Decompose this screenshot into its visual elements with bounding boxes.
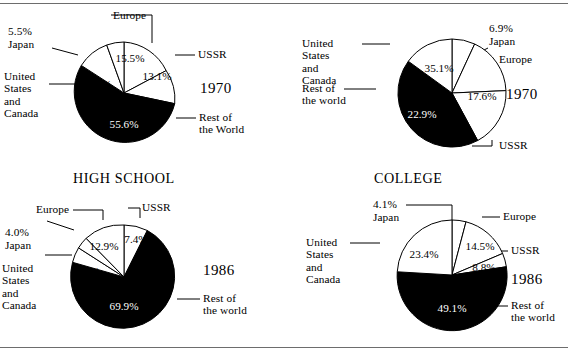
pct-usa-hs1986: 5.8% — [76, 265, 99, 277]
pct-japan-hs1986: 4.0% — [5, 226, 29, 238]
pct-japan-hs1970: 5.5% — [8, 25, 32, 37]
label-europe-col1986: Europe — [503, 210, 536, 222]
label-usa-col1970: United States and Canada — [302, 37, 336, 87]
year-hs1986: 1986 — [203, 262, 235, 279]
pct-europe-col1986: 14.5% — [466, 240, 495, 252]
chart-college-1970: 35.1% 17.6% 17.6% 22.9% 6.9% Japan Europ… — [284, 0, 568, 170]
label-japan-hs1986: Japan — [5, 239, 31, 251]
pct-rest-col1970: 22.9% — [408, 108, 437, 120]
label-ussr-hs1986: USSR — [142, 201, 171, 213]
label-europe-col1970: Europe — [499, 53, 532, 65]
pct-europe-hs1970: 15.5% — [116, 52, 145, 64]
label-rest-hs1986: Rest of the world — [203, 292, 247, 317]
pie-high-school-1970: 15.5% 13.1% 55.6% 10.3% — [0, 0, 284, 170]
chart-high-school-1986: 7.4% 12.9% 5.8% 69.9% Europe USSR 4.0% J… — [0, 178, 284, 348]
label-usa-hs1986: United States and Canada — [2, 262, 36, 312]
label-japan-col1986: Japan — [373, 211, 399, 223]
label-europe-hs1986: Europe — [36, 203, 69, 215]
label-rest-hs1970: Rest of the World — [199, 111, 244, 136]
label-japan-hs1970: Japan — [8, 38, 34, 50]
label-ussr-col1986: USSR — [511, 244, 540, 256]
figure-page: 15.5% 13.1% 55.6% 10.3% Europe USSR Rest… — [0, 0, 568, 355]
pct-usa-hs1970: 10.3% — [83, 78, 112, 90]
pct-europe-col1970: 17.6% — [468, 90, 497, 102]
pct-ussr-col1970: 17.6% — [444, 125, 473, 137]
pct-rest-hs1986: 69.9% — [110, 300, 139, 312]
pct-rest-hs1970: 55.6% — [110, 118, 139, 130]
pct-europe-hs1986: 12.9% — [90, 240, 119, 252]
year-hs1970: 1970 — [200, 80, 232, 97]
pie-slices-col1986 — [397, 220, 507, 331]
chart-college-1986: 23.4% 14.5% 8.8% 49.1% 4.1% Japan Europe… — [284, 178, 568, 348]
pct-japan-col1970: 6.9% — [489, 22, 513, 34]
pct-ussr-col1986: 8.8% — [472, 261, 495, 273]
label-japan-col1970: Japan — [489, 35, 515, 47]
pct-ussr-hs1986: 7.4% — [124, 233, 147, 245]
pct-ussr-hs1970: 13.1% — [143, 70, 172, 82]
label-ussr-col1970: USSR — [499, 139, 528, 151]
year-col1986: 1986 — [511, 271, 543, 288]
chart-high-school-1970: 15.5% 13.1% 55.6% 10.3% Europe USSR Rest… — [0, 0, 284, 170]
label-ussr-hs1970: USSR — [198, 48, 227, 60]
section-title-college: COLLEGE — [374, 170, 442, 187]
label-usa-col1986: United States and Canada — [306, 236, 340, 286]
label-usa-hs1970: United States and Canada — [4, 70, 38, 120]
slice-rest-of-world — [397, 267, 507, 331]
pct-usa-col1986: 23.4% — [410, 248, 439, 260]
label-rest-col1986: Rest of the world — [511, 299, 555, 324]
pct-rest-col1986: 49.1% — [438, 302, 467, 314]
year-col1970: 1970 — [506, 86, 538, 103]
label-europe-hs1970: Europe — [113, 9, 146, 21]
pct-usa-col1970: 35.1% — [425, 62, 454, 74]
label-rest-col1970: Rest of the world — [302, 82, 346, 107]
section-title-high-school: HIGH SCHOOL — [73, 170, 175, 187]
pct-japan-col1986: 4.1% — [373, 198, 397, 210]
